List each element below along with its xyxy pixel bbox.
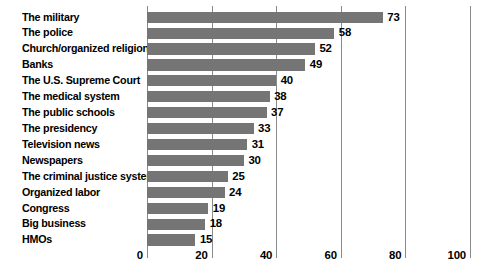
bar-value-label: 40: [281, 73, 293, 89]
bar-row: The police58: [0, 25, 482, 41]
x-tick-label-20: 20: [172, 249, 208, 261]
category-label: HMOs: [22, 232, 52, 248]
bar-row: The criminal justice system25: [0, 169, 482, 185]
bar-row: Big business18: [0, 216, 482, 232]
bar-row: HMOs15: [0, 232, 482, 248]
bar-row: Organized labor24: [0, 185, 482, 201]
bar-value-label: 37: [271, 105, 283, 121]
category-label: Congress: [22, 201, 70, 217]
bar-row: Church/organized religion52: [0, 41, 482, 57]
bar: [147, 203, 208, 214]
category-label: The military: [22, 10, 79, 26]
category-label: The public schools: [22, 105, 115, 121]
bar-value-label: 31: [252, 137, 264, 153]
bar: [147, 219, 205, 230]
bar: [147, 123, 254, 134]
category-label: Organized labor: [22, 185, 100, 201]
category-label: The medical system: [22, 89, 120, 105]
bar: [147, 28, 334, 39]
bar-value-label: 30: [248, 153, 260, 169]
x-tick-label-0: 0: [107, 249, 143, 261]
bar-row: The medical system38: [0, 89, 482, 105]
bar: [147, 187, 225, 198]
category-label: The criminal justice system: [22, 169, 156, 185]
bar-chart: The military73The police58Church/organiz…: [0, 0, 482, 275]
bar-value-label: 33: [258, 121, 270, 137]
bar: [147, 91, 270, 102]
category-label: Church/organized religion: [22, 41, 149, 57]
bar: [147, 75, 276, 86]
bar-value-label: 18: [210, 216, 222, 232]
bar-value-label: 19: [213, 201, 225, 217]
plot-area: The military73The police58Church/organiz…: [0, 0, 482, 275]
category-label: Newspapers: [22, 153, 83, 169]
category-label: Banks: [22, 57, 53, 73]
bar-value-label: 52: [319, 41, 331, 57]
bar-value-label: 24: [229, 185, 241, 201]
bar: [147, 59, 305, 70]
bar-value-label: 58: [339, 25, 351, 41]
bar: [147, 171, 228, 182]
bar-value-label: 25: [232, 169, 244, 185]
bar-row: Congress19: [0, 201, 482, 217]
bar-row: Banks49: [0, 57, 482, 73]
bar-row: Newspapers30: [0, 153, 482, 169]
bar-value-label: 38: [274, 89, 286, 105]
bar-value-label: 49: [310, 57, 322, 73]
category-label: The U.S. Supreme Court: [22, 73, 140, 89]
bar: [147, 155, 244, 166]
category-label: Television news: [22, 137, 100, 153]
bar-row: The public schools37: [0, 105, 482, 121]
bar-row: The military73: [0, 10, 482, 26]
category-label: The police: [22, 25, 73, 41]
bar-value-label: 73: [387, 10, 399, 26]
category-label: The presidency: [22, 121, 97, 137]
x-tick-label-80: 80: [365, 249, 401, 261]
bar: [147, 107, 267, 118]
bar-row: The presidency33: [0, 121, 482, 137]
bar-value-label: 15: [200, 232, 212, 248]
bar: [147, 12, 383, 23]
bar: [147, 43, 315, 54]
category-label: Big business: [22, 216, 86, 232]
bar: [147, 139, 247, 150]
bar: [147, 234, 195, 245]
bar-row: Television news31: [0, 137, 482, 153]
x-tick-label-60: 60: [301, 249, 337, 261]
x-tick-label-100: 100: [430, 249, 466, 261]
bar-row: The U.S. Supreme Court40: [0, 73, 482, 89]
x-tick-label-40: 40: [236, 249, 272, 261]
